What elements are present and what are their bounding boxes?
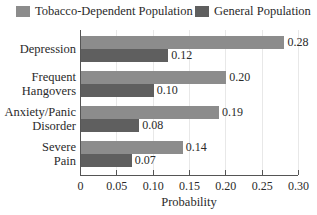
bar-value-label: 0.19	[222, 106, 243, 119]
x-tick-label: 0.05	[106, 179, 127, 194]
bar-general	[81, 119, 139, 132]
gridline	[225, 30, 226, 175]
bar-value-label: 0.08	[142, 119, 163, 132]
bar-value-label: 0.12	[171, 49, 192, 62]
bar-tobacco	[81, 141, 183, 154]
category-label: Depression	[20, 42, 76, 56]
x-tick-label: 0.25	[252, 179, 273, 194]
category-label: SeverePain	[42, 140, 76, 168]
x-tick	[298, 170, 299, 175]
x-tick-label: 0.10	[143, 179, 164, 194]
bar-value-label: 0.20	[229, 71, 250, 84]
bar-tobacco	[81, 71, 226, 84]
x-axis	[80, 175, 298, 176]
category-label: Anxiety/PanicDisorder	[4, 105, 76, 133]
x-tick-label: 0	[78, 179, 84, 194]
bar-chart: 00.050.100.150.200.250.30Probability0.28…	[0, 0, 317, 215]
x-tick-label: 0.20	[215, 179, 236, 194]
x-tick-label: 0.15	[179, 179, 200, 194]
gridline	[298, 30, 299, 175]
bar-general	[81, 49, 168, 62]
bar-value-label: 0.10	[157, 84, 178, 97]
bar-value-label: 0.14	[186, 141, 207, 154]
bar-general	[81, 84, 154, 97]
bar-value-label: 0.07	[135, 154, 156, 167]
x-axis-label: Probability	[161, 195, 217, 210]
bar-value-label: 0.28	[287, 36, 308, 49]
category-label: FrequentHangovers	[22, 70, 76, 98]
gridline	[262, 30, 263, 175]
bar-general	[81, 154, 132, 167]
x-tick-label: 0.30	[288, 179, 309, 194]
